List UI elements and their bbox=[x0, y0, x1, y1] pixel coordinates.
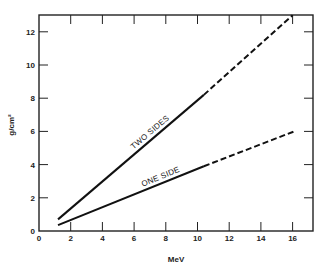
plot-frame bbox=[39, 15, 313, 231]
data-series: TWO SIDESONE SIDE bbox=[58, 15, 294, 225]
y-tick-label: 0 bbox=[31, 227, 36, 236]
series-label-one-side: ONE SIDE bbox=[140, 165, 181, 189]
y-tick-label: 8 bbox=[31, 94, 36, 103]
x-tick-label: 14 bbox=[256, 234, 265, 243]
series-one-side-dashed bbox=[204, 131, 294, 166]
y-tick-label: 2 bbox=[31, 194, 36, 203]
x-tick-label: 10 bbox=[193, 234, 202, 243]
series-two-sides-solid bbox=[58, 95, 204, 220]
y-tick-label: 4 bbox=[31, 161, 36, 170]
y-tick-label: 12 bbox=[26, 28, 35, 37]
x-tick-label: 4 bbox=[100, 234, 105, 243]
y-tick-label: 6 bbox=[31, 127, 36, 136]
y-tick-label: 10 bbox=[26, 61, 35, 70]
series-two-sides-dashed bbox=[204, 15, 293, 95]
series-one-side-solid bbox=[58, 166, 204, 225]
y-axis-label: g/cm² bbox=[7, 114, 16, 136]
x-tick-label: 12 bbox=[225, 234, 234, 243]
x-tick-label: 2 bbox=[68, 234, 73, 243]
x-tick-label: 0 bbox=[37, 234, 42, 243]
plot-border bbox=[39, 15, 313, 231]
x-axis-ticks: 0246810121416 bbox=[37, 15, 298, 243]
x-axis-label: MeV bbox=[168, 255, 185, 264]
x-tick-label: 6 bbox=[132, 234, 137, 243]
line-chart: 0246810121416 024681012 TWO SIDESONE SID… bbox=[0, 0, 324, 266]
series-label-two-sides: TWO SIDES bbox=[129, 113, 171, 151]
x-tick-label: 8 bbox=[164, 234, 169, 243]
y-axis-ticks: 024681012 bbox=[26, 28, 313, 236]
x-tick-label: 16 bbox=[288, 234, 297, 243]
